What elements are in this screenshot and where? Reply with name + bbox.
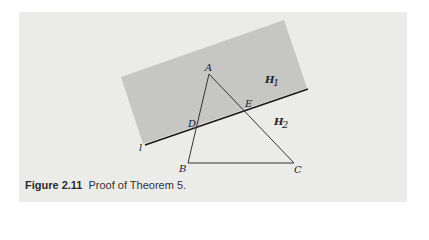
label-c: C [294, 164, 302, 175]
label-b: B [178, 163, 186, 174]
label-l: l [139, 142, 142, 153]
svg-text:1: 1 [273, 77, 279, 88]
label-d: D [187, 118, 196, 129]
figure-number: Figure 2.11 [25, 179, 82, 191]
label-h2: H 2 [273, 116, 288, 130]
label-a: A [204, 62, 212, 73]
svg-text:2: 2 [281, 119, 288, 130]
figure-caption-text: Proof of Theorem 5. [88, 179, 186, 191]
figure-caption: Figure 2.11Proof of Theorem 5. [25, 179, 186, 191]
label-e: E [244, 98, 253, 109]
